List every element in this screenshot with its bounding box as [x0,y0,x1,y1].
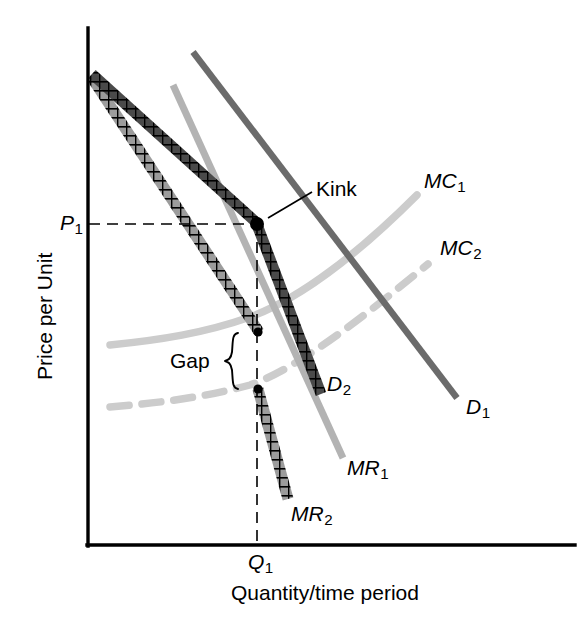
curve-label-mr2: MR2 [291,503,333,527]
quantity-tick-letter: Q [248,550,264,573]
curve-label-mc1-subscript: 1 [457,178,466,195]
kinked-demand-curve-figure: Price per Unit Quantity/time period P1 Q… [0,0,588,621]
curve-mc1 [110,195,417,345]
curve-mr2-lower-segment [258,389,288,499]
curve-label-d2: D2 [327,373,351,397]
kink-leader-line [268,192,312,218]
curve-label-mc1: MC1 [424,170,466,194]
chart-canvas [0,0,588,621]
price-tick-letter: P [60,211,74,234]
gap-upper-endpoint-dot [253,327,262,336]
kink-annotation-label: Kink [316,178,357,199]
gap-brace [225,333,238,389]
x-axis-label: Quantity/time period [231,582,419,603]
quantity-tick-subscript: 1 [264,559,273,576]
curve-label-mc2-text: MC [440,236,473,259]
quantity-tick-label: Q1 [248,551,273,575]
curve-label-mc1-text: MC [424,169,457,192]
y-axis-label: Price per Unit [34,253,55,380]
curve-label-d1-text: D [466,395,481,418]
curve-label-mr1-text: MR [347,456,380,479]
kink-point-dot [250,217,264,231]
curve-label-mr2-text: MR [291,502,324,525]
curve-label-d1-subscript: 1 [481,404,490,421]
curve-label-d2-subscript: 2 [342,381,351,398]
curve-label-mr2-subscript: 2 [324,511,333,528]
curve-label-d1: D1 [466,396,490,420]
price-tick-subscript: 1 [74,220,83,237]
curve-label-d2-text: D [327,372,342,395]
curve-label-mc2-subscript: 2 [473,245,482,262]
price-tick-label: P1 [60,212,83,236]
gap-lower-endpoint-dot [253,384,262,393]
curve-label-mc2: MC2 [440,237,482,261]
gap-annotation-label: Gap [170,350,210,371]
curve-label-mr1: MR1 [347,457,389,481]
curve-label-mr1-subscript: 1 [380,465,389,482]
